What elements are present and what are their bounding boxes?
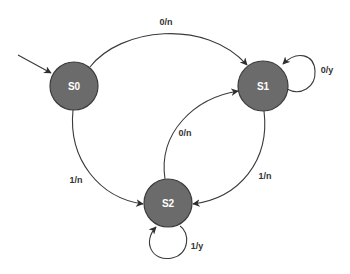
edge-s0-s2 bbox=[72, 110, 143, 204]
edge-label-s0-s1: 0/n bbox=[159, 17, 172, 27]
state-node-s1: S1 bbox=[238, 61, 288, 111]
state-label-s0: S0 bbox=[68, 81, 81, 92]
edge-label-s1-self: 0/y bbox=[321, 65, 334, 75]
initial-state-arrow bbox=[18, 55, 51, 73]
edge-label-s2-s1: 0/n bbox=[178, 128, 191, 138]
state-diagram: 0/n 0/y 1/n 0/n 1/n 1/y S0 S1 S2 bbox=[0, 0, 350, 274]
edge-s0-s1 bbox=[90, 34, 247, 67]
state-label-s1: S1 bbox=[257, 81, 270, 92]
edge-label-s0-s2: 1/n bbox=[69, 175, 82, 185]
edge-label-s2-self: 1/y bbox=[191, 241, 204, 251]
edge-s2-self-loop bbox=[149, 226, 186, 259]
edge-s2-s1 bbox=[164, 91, 238, 179]
state-node-s0: S0 bbox=[50, 62, 98, 110]
state-node-s2: S2 bbox=[144, 179, 192, 227]
state-label-s2: S2 bbox=[162, 198, 175, 209]
edge-s1-s2 bbox=[193, 111, 265, 204]
edge-label-s1-s2: 1/n bbox=[258, 171, 271, 181]
